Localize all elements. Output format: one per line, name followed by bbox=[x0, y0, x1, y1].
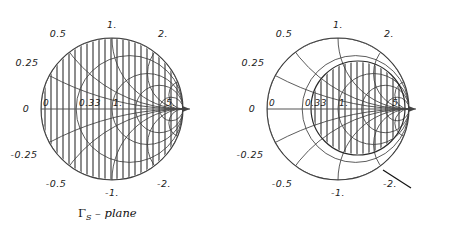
r-label-5: 5. bbox=[166, 98, 176, 108]
smith-chart-gamma-s: 1. 0.5 2. 0.25 0 -0.25 -0.5 -1. -2. 0 0.… bbox=[0, 0, 229, 210]
tick-label-pos0p5: 0.5 bbox=[50, 28, 67, 39]
smith-chart-figure: 1. 0.5 2. 0.25 0 -0.25 -0.5 -1. -2. 0 0.… bbox=[0, 0, 458, 234]
tick-label-neg0p25: -0.25 bbox=[236, 149, 263, 160]
tick-label-neg1: -1. bbox=[331, 187, 345, 198]
caption-gamma-rest: – plane bbox=[91, 206, 136, 220]
tick-label-neg0p5: -0.5 bbox=[272, 178, 293, 189]
tick-label-pos2: 2. bbox=[384, 28, 394, 39]
tick-label-pos1: 1. bbox=[107, 19, 117, 30]
r-label-0p33: 0.33 bbox=[79, 98, 101, 108]
r-label-1: 1. bbox=[339, 98, 349, 108]
tick-label-neg1: -1. bbox=[105, 187, 119, 198]
tick-label-pos0p25: 0.25 bbox=[15, 57, 38, 68]
r-label-1: 1. bbox=[113, 98, 123, 108]
caption-gamma-s-plane: ΓS – plane bbox=[78, 206, 137, 222]
smith-chart-gamma-l: 1. 0.5 2. 0.25 0 -0.25 -0.5 -1. -2. 0 0.… bbox=[226, 0, 458, 210]
tick-label-pos0p5: 0.5 bbox=[276, 28, 293, 39]
tick-label-zero: 0 bbox=[249, 103, 256, 114]
chart-panel-gamma-s: 1. 0.5 2. 0.25 0 -0.25 -0.5 -1. -2. 0 0.… bbox=[0, 0, 229, 234]
r-label-0p33: 0.33 bbox=[305, 98, 327, 108]
tick-label-neg2: -2. bbox=[157, 178, 171, 189]
tick-label-pos1: 1. bbox=[333, 19, 343, 30]
chart-panel-gamma-l: 1. 0.5 2. 0.25 0 -0.25 -0.5 -1. -2. 0 0.… bbox=[226, 0, 458, 234]
r-label-0: 0 bbox=[43, 98, 49, 108]
tick-label-zero: 0 bbox=[23, 103, 30, 114]
r-label-0: 0 bbox=[269, 98, 275, 108]
axis-arrow-gamma-s bbox=[183, 106, 190, 112]
caption-gamma-symbol: Γ bbox=[78, 206, 86, 220]
axis-arrow-gamma-l bbox=[409, 106, 416, 112]
r-label-5: 5. bbox=[392, 98, 402, 108]
tick-label-neg0p25: -0.25 bbox=[10, 149, 37, 160]
tick-label-pos2: 2. bbox=[158, 28, 168, 39]
tick-label-pos0p25: 0.25 bbox=[241, 57, 264, 68]
tick-label-neg0p5: -0.5 bbox=[46, 178, 67, 189]
tick-label-neg2: -2. bbox=[383, 178, 397, 189]
